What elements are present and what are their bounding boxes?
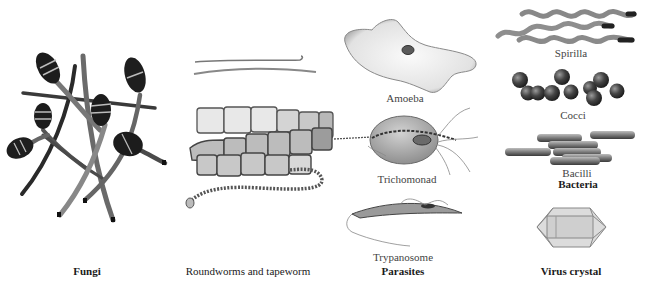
fungi-label: Fungi xyxy=(73,265,101,277)
trichomonad-label: Trichomonad xyxy=(378,173,437,185)
fungi-illustration xyxy=(3,48,166,222)
cocci-label: Cocci xyxy=(560,109,586,121)
bacteria-label: Bacteria xyxy=(558,178,598,190)
amoeba-label: Amoeba xyxy=(386,92,423,104)
illustration-canvas xyxy=(0,0,649,285)
worms-label: Roundworms and tapeworm xyxy=(186,265,311,277)
virus-crystal-illustration xyxy=(537,208,606,247)
amoeba-shape xyxy=(345,20,476,93)
spirilla-label: Spirilla xyxy=(555,47,587,59)
bacteria-illustration xyxy=(498,11,635,165)
trypanosome-shape xyxy=(352,203,462,218)
trypanosome-label: Trypanosome xyxy=(373,251,433,263)
virus-crystal-label: Virus crystal xyxy=(541,265,601,277)
parasites-label: Parasites xyxy=(382,265,425,277)
pathogen-figure: Fungi Roundworms and tapeworm Amoeba Tri… xyxy=(0,0,649,285)
worms-illustration xyxy=(186,56,333,208)
parasites-illustration xyxy=(334,20,478,246)
